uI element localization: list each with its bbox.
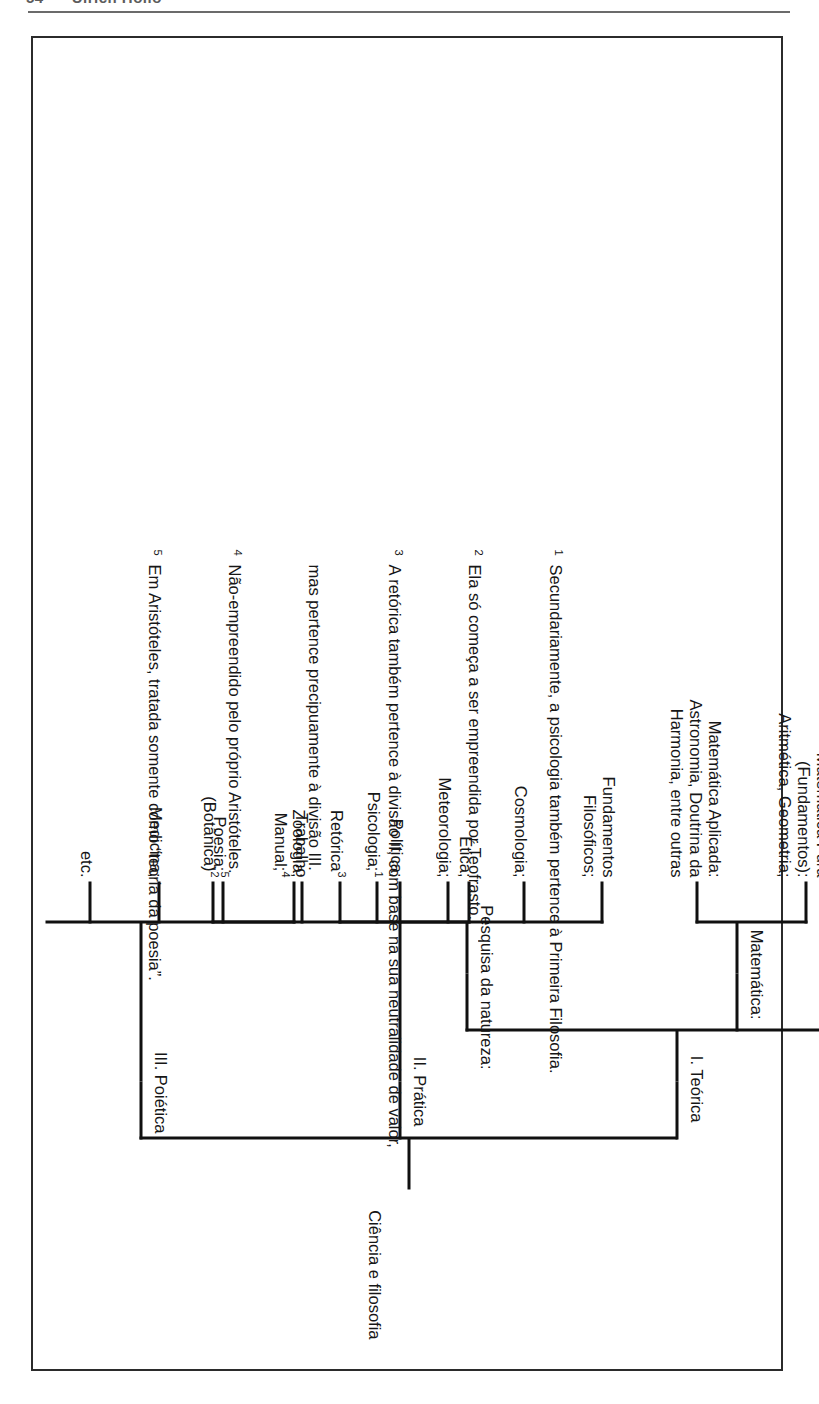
footnote-item-continuation: mas pertence precipuamente à divisão III… (301, 550, 328, 1190)
page-header: 54Ulrich Hollo (0, 0, 819, 16)
group-matematica-label: Matemática: (748, 930, 767, 1020)
branch-1-label: I. Teórica (688, 1056, 707, 1123)
footnote-block: 1Secundariamente, a psicologia também pe… (88, 550, 622, 1190)
root-node-label: Ciência e filosofia (366, 1210, 385, 1339)
leaf-connector (696, 882, 699, 924)
branch-1-stem (676, 1030, 679, 1082)
footnote-marker: 1 (550, 550, 568, 556)
footnote-item: 1Secundariamente, a psicologia também pe… (542, 550, 569, 1190)
tree-diagram-canvas: Ciência e filosofia I. Teórica Primeira … (36, 39, 784, 1370)
footnote-item: 5Em Aristóteles, tratada somente como “t… (141, 550, 168, 1190)
footnote-text: Não-empreendido pelo próprio Aristóteles… (226, 565, 244, 874)
group-matematica-spine (696, 921, 808, 924)
footnote-marker: 2 (470, 550, 488, 556)
leaf-connector (805, 882, 808, 924)
footnote-marker: 5 (149, 550, 167, 556)
footnote-marker: 4 (229, 550, 247, 556)
header-rule (28, 11, 790, 13)
running-head-title: Ulrich Hollo (72, 0, 162, 6)
footnote-item: 4Não-empreendido pelo próprio Aristótele… (221, 550, 248, 1190)
group-matematica-stem (736, 922, 739, 974)
running-head-line: 54Ulrich Hollo (26, 0, 162, 6)
footnote-text: Secundariamente, a psicologia também per… (546, 565, 564, 1074)
footnote-text: mas pertence precipuamente à divisão III… (306, 565, 324, 871)
figure-frame: Ciência e filosofia I. Teórica Primeira … (31, 36, 783, 1371)
leaf-matematica-pura: Matemática Pura (Fundamentos): Aritmétic… (776, 713, 819, 877)
branch-1-connector (676, 1082, 679, 1140)
footnote-text: Em Aristóteles, tratada somente como “te… (146, 565, 164, 981)
leaf-matematica-aplicada: Matemática Aplicada: Astronomia, Doutrin… (668, 700, 724, 878)
folio-number: 54 (26, 0, 44, 6)
group-matematica-connector (736, 974, 739, 1032)
footnote-item: 3A retórica também pertence à divisão II… (381, 550, 408, 1190)
footnote-item: 2Ela só começa a ser empreendida por Teo… (462, 550, 489, 1190)
footnote-text: A retórica também pertence à divisão II,… (386, 565, 404, 1148)
footnote-marker: 3 (389, 550, 407, 556)
footnote-text: Ela só começa a ser empreendida por Teof… (466, 565, 484, 921)
